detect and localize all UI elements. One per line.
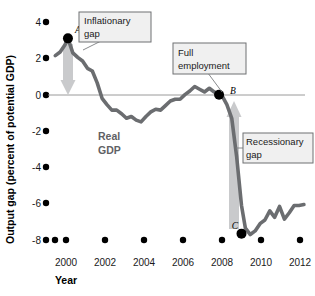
point-marker-b <box>214 90 224 100</box>
y-tick-label: 2 <box>35 53 41 64</box>
x-tick-marker <box>219 237 225 243</box>
point-label-b: B <box>230 86 236 96</box>
y-tick-marker <box>43 55 49 61</box>
chart-figure: Output gap (percent of potential GDP) 4 … <box>0 0 315 296</box>
x-tick-label: 2002 <box>94 257 117 268</box>
x-tick-label: 2004 <box>133 257 156 268</box>
x-tick-marker <box>63 237 69 243</box>
y-tick-label: -4 <box>32 162 41 173</box>
y-tick-marker <box>43 200 49 206</box>
y-tick-marker <box>43 19 49 25</box>
callout-line-1: Inflationary <box>84 15 131 26</box>
x-tick-label: 2006 <box>172 257 195 268</box>
point-marker-c <box>237 229 247 239</box>
x-tick-marker <box>297 237 303 243</box>
y-tick-marker <box>43 128 49 134</box>
x-tick-marker <box>258 237 264 243</box>
x-tick-label: 2012 <box>289 257 312 268</box>
callout-full-employment: Full employment <box>173 43 246 74</box>
x-tick-marker <box>102 237 108 243</box>
point-label-c: C <box>232 221 239 231</box>
x-tick-label: 2010 <box>250 257 273 268</box>
x-tick-marker <box>180 237 186 243</box>
series-label-line-2: GDP <box>98 144 121 156</box>
x-axis-origin-marker <box>52 237 58 243</box>
output-gap-line-chart: Output gap (percent of potential GDP) 4 … <box>0 0 315 296</box>
x-tick-label: 2008 <box>211 257 234 268</box>
callout-line-2: gap <box>84 28 100 39</box>
callout-recessionary-gap: Recessionary gap <box>243 133 313 163</box>
callout-inflationary-gap: Inflationary gap <box>79 12 151 42</box>
x-axis-title: Year <box>55 274 77 286</box>
callout-line-1: Full <box>178 47 193 58</box>
callout-line-2: gap <box>246 149 262 160</box>
y-tick-label: 0 <box>35 90 41 101</box>
x-tick-marker <box>141 237 147 243</box>
y-axis-title: Output gap (percent of potential GDP) <box>4 55 16 244</box>
y-tick-label: 4 <box>35 17 41 28</box>
callout-line-1: Recessionary <box>246 136 304 147</box>
y-tick-label: -2 <box>32 126 41 137</box>
y-tick-marker <box>43 237 49 243</box>
y-tick-label: -8 <box>32 235 41 246</box>
y-tick-marker <box>43 164 49 170</box>
series-label-line-1: Real <box>98 130 120 142</box>
point-marker-a <box>63 33 73 43</box>
callout-line-2: employment <box>178 60 230 71</box>
x-tick-label: 2000 <box>55 257 78 268</box>
y-tick-label: -6 <box>32 198 41 209</box>
